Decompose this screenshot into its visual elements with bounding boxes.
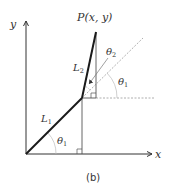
theta1-base-arc — [48, 133, 56, 154]
theta1-joint-arc — [107, 73, 117, 98]
robot-arm-diagram: y x P(x, y) L1 L2 θ1 θ2 θ1 (b) — [0, 0, 171, 185]
right-angle-marker-base — [77, 149, 82, 154]
right-angle-marker-joint — [91, 93, 96, 98]
dashed-link1-extension — [82, 38, 143, 98]
link-2-label: L2 — [72, 62, 84, 75]
x-axis-label: x — [155, 148, 162, 161]
y-axis-label: y — [9, 18, 17, 31]
theta1-joint-label: θ1 — [118, 76, 128, 89]
link-1 — [26, 98, 82, 154]
link-2 — [82, 32, 96, 98]
end-effector-label: P(x, y) — [76, 11, 112, 24]
theta2-leader — [89, 58, 108, 84]
figure-caption: (b) — [86, 172, 100, 183]
theta1-base-label: θ1 — [57, 135, 67, 148]
link-1-label: L1 — [40, 113, 52, 126]
theta2-label: θ2 — [106, 46, 116, 59]
